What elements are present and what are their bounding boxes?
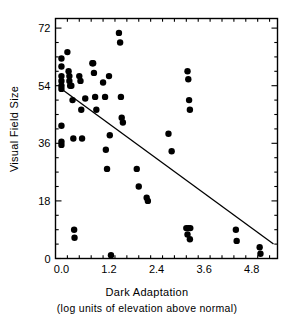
data-point <box>184 68 190 74</box>
data-point <box>58 55 64 61</box>
x-tick-label: 0.0 <box>54 263 69 275</box>
data-point <box>187 225 193 231</box>
data-point <box>118 94 124 100</box>
data-point <box>107 132 113 138</box>
data-point <box>58 123 64 129</box>
data-point <box>168 148 174 154</box>
data-point <box>70 135 76 141</box>
x-tick-label: 1.2 <box>101 263 116 275</box>
data-point <box>108 252 114 258</box>
data-point <box>120 119 126 125</box>
data-point <box>92 94 98 100</box>
data-point <box>145 198 151 204</box>
data-point <box>100 79 106 85</box>
data-point <box>257 251 263 257</box>
x-tick-label: 4.8 <box>244 263 259 275</box>
data-point <box>64 49 70 55</box>
y-tick-label: 54 <box>38 80 50 92</box>
x-tick-label: 3.6 <box>197 263 212 275</box>
data-point <box>82 95 88 101</box>
data-point <box>116 30 122 36</box>
data-point <box>58 63 64 69</box>
y-axis-title: Visual Field Size <box>8 86 20 172</box>
y-tick-label: 72 <box>38 22 50 34</box>
x-axis-title: Dark Adaptation <box>0 286 294 298</box>
data-point <box>103 147 109 153</box>
data-point <box>69 97 75 103</box>
data-point <box>90 60 96 66</box>
data-point <box>77 78 83 84</box>
y-axis-title-container: Visual Field Size <box>2 0 26 258</box>
data-point <box>104 166 110 172</box>
data-point <box>136 183 142 189</box>
data-point <box>233 227 239 233</box>
data-point <box>187 236 193 242</box>
data-point <box>91 70 97 76</box>
plot-canvas: 0.01.22.43.64.8018365472 <box>0 0 294 324</box>
tick-labels: 0.01.22.43.64.8018365472 <box>38 22 259 274</box>
data-point <box>71 235 77 241</box>
data-point <box>71 227 77 233</box>
data-point <box>117 39 123 45</box>
data-points <box>58 30 263 259</box>
data-point <box>102 94 108 100</box>
data-point <box>78 107 84 113</box>
regression-line <box>61 89 273 244</box>
scatter-plot-figure: 0.01.22.43.64.8018365472 Visual Field Si… <box>0 0 294 324</box>
data-point <box>256 244 262 250</box>
data-point <box>185 76 191 82</box>
data-point <box>58 142 64 148</box>
y-tick-label: 18 <box>38 195 50 207</box>
x-axis-subtitle: (log units of elevation above normal) <box>0 302 294 314</box>
data-point <box>93 107 99 113</box>
data-point <box>233 238 239 244</box>
data-point <box>68 83 74 89</box>
y-tick-label: 0 <box>44 253 50 265</box>
x-tick-label: 2.4 <box>149 263 164 275</box>
data-point <box>186 97 192 103</box>
data-point <box>79 135 85 141</box>
data-point <box>106 73 112 79</box>
data-point <box>187 107 193 113</box>
data-point <box>165 131 171 137</box>
data-point <box>58 86 64 92</box>
data-point <box>134 166 140 172</box>
y-tick-label: 36 <box>38 137 50 149</box>
